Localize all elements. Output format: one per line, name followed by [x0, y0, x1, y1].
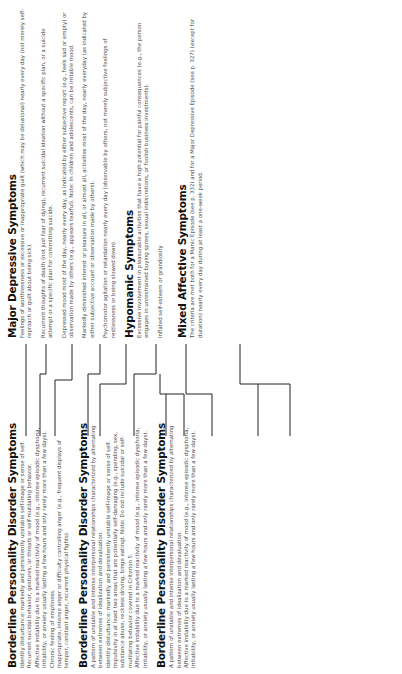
connector-emptiness-diminished — [88, 344, 100, 436]
connector-affective-mixed — [258, 384, 290, 436]
connector-impulsivity-pleasurable — [160, 374, 184, 436]
connector-lines — [0, 0, 402, 674]
connector-suicidal-death — [40, 344, 46, 436]
connector-relationships-hypomanic — [134, 344, 156, 436]
connector-affective-depressed — [55, 344, 72, 436]
connector-relationships-mixed — [240, 344, 258, 436]
connector-anger-psychomotor — [100, 344, 126, 436]
connector-affective-inflated — [186, 344, 212, 436]
rotated-page: Borderline Personality Disorder Symptoms… — [0, 0, 402, 674]
